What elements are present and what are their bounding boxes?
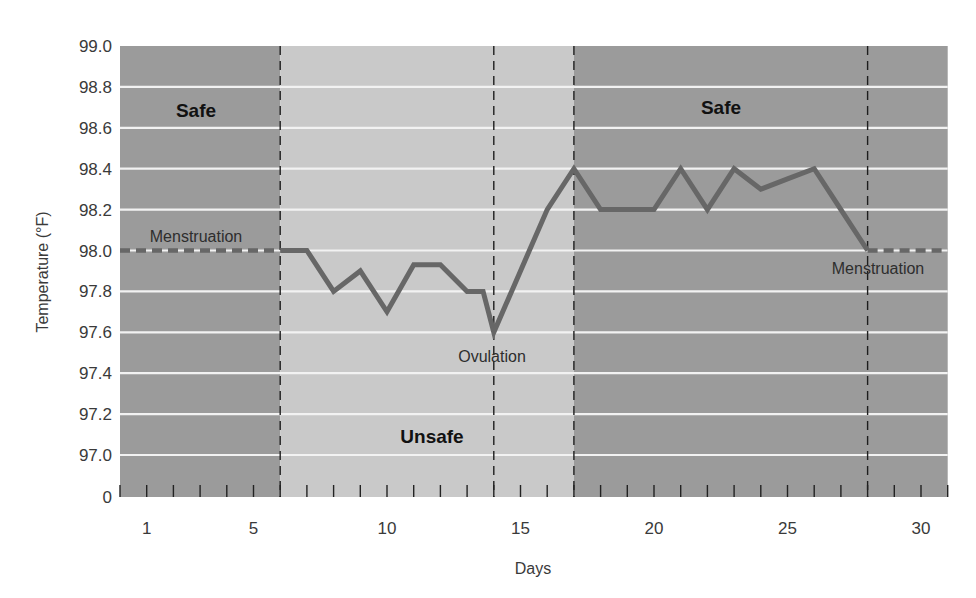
y-tick-label: 98.6 [79,119,112,138]
zone-label-safe-left: Safe [176,100,216,121]
y-tick-label: 97.2 [79,405,112,424]
zone-regions [120,46,948,497]
x-tick-label: 5 [249,519,258,538]
x-tick-label: 1 [142,519,151,538]
annotation-ovulation: Ovulation [458,348,526,365]
x-axis-tick-labels: 151015202530 [142,519,930,538]
y-axis-tick-labels: 99.098.898.698.498.298.097.897.697.497.2… [79,37,112,507]
x-axis-title: Days [515,560,551,577]
y-tick-label: 97.6 [79,323,112,342]
x-tick-label: 25 [778,519,797,538]
annotation-menstruation-left: Menstruation [150,228,243,245]
y-tick-label: 97.0 [79,446,112,465]
zone-label-unsafe: Unsafe [400,426,463,447]
y-tick-label: 98.4 [79,160,112,179]
x-tick-label: 10 [378,519,397,538]
x-tick-label: 15 [511,519,530,538]
x-tick-label: 30 [912,519,931,538]
y-tick-label: 98.8 [79,78,112,97]
y-axis-title: Temperature (°F) [34,211,51,332]
y-tick-label: 0 [103,488,112,507]
y-tick-label: 99.0 [79,37,112,56]
bbt-chart: 99.098.898.698.498.298.097.897.697.497.2… [0,0,976,598]
y-tick-label: 98.0 [79,242,112,261]
y-tick-label: 97.4 [79,364,112,383]
y-tick-label: 97.8 [79,282,112,301]
y-tick-label: 98.2 [79,201,112,220]
annotation-menstruation-right: Menstruation [832,260,925,277]
x-tick-label: 20 [645,519,664,538]
zone-label-safe-right: Safe [701,97,741,118]
